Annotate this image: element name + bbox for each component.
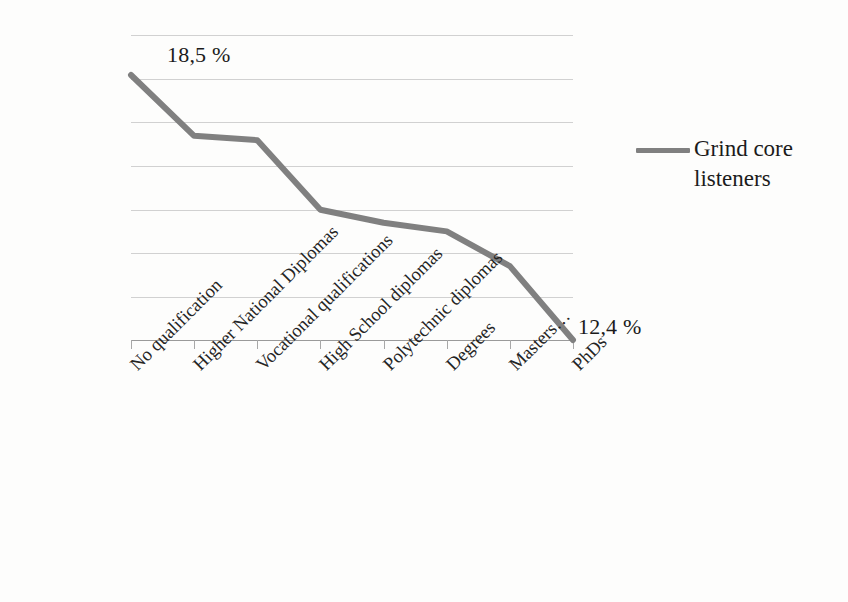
- x-axis-label-masters: Masters…: [506, 306, 574, 374]
- x-axis-label-high-school-diplomas: High School diplomas: [316, 244, 446, 374]
- x-axis-label-polytechnic-diplomas: Polytechnic diplomas: [380, 248, 506, 374]
- x-axis-label-degrees: Degrees: [443, 318, 499, 374]
- legend-line-swatch: [636, 148, 690, 153]
- x-axis-category-labels: No qualification Higher National Diploma…: [0, 0, 848, 602]
- chart-legend: Grind core listeners: [636, 134, 841, 195]
- legend-label-grind-core-listeners: Grind core listeners: [694, 134, 834, 195]
- line-chart-figure: 18,5 % 12,4 % No qualification Higher Na…: [0, 0, 848, 602]
- x-axis-label-phds: PhDs: [569, 333, 610, 374]
